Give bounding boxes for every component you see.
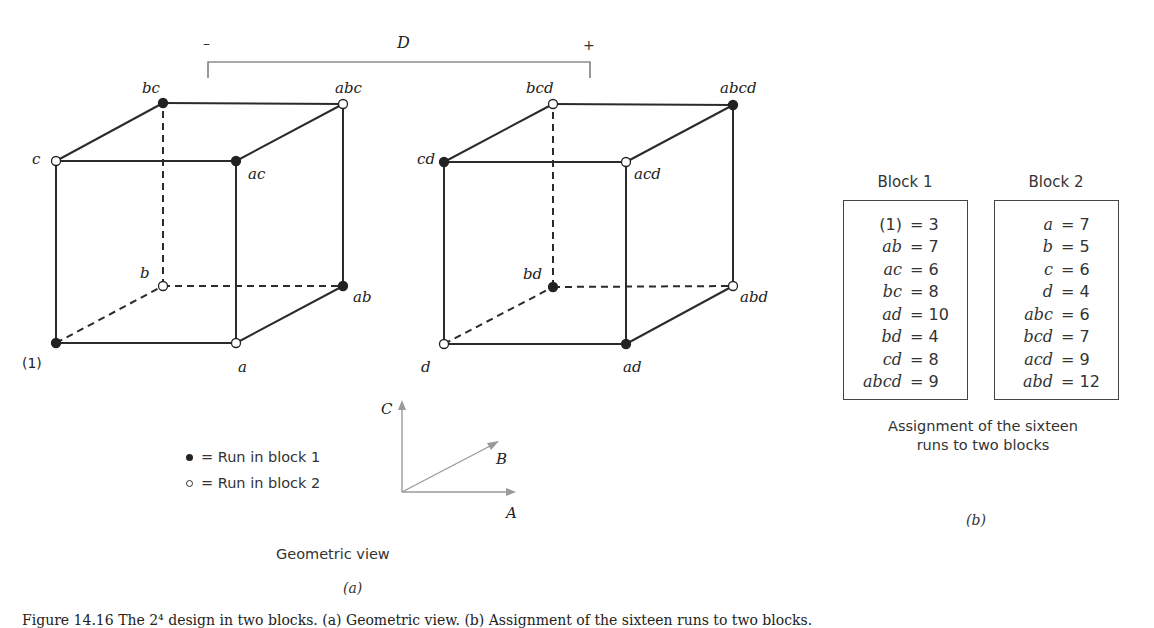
assignment-caption-line1: Assignment of the sixteen: [840, 417, 1126, 436]
block-run-row: ac= 6: [844, 258, 967, 281]
legend: = Run in block 1 = Run in block 2: [186, 444, 320, 496]
block2-run-dot-icon: [52, 157, 61, 166]
run-label: ac: [844, 260, 902, 279]
cube-edge: [626, 286, 733, 344]
block2-run-dot-icon: [232, 339, 241, 348]
run-value: = 8: [902, 282, 939, 301]
legend-label: = Run in block 2: [201, 475, 320, 491]
block2-run-dot-icon: [729, 282, 738, 291]
run-value: = 8: [902, 350, 939, 369]
block2-run-dot-icon: [159, 282, 168, 291]
vertex-label: abcd: [720, 79, 757, 97]
cube-vertex-labels: (1)ababcacbcabcdadbdabdcdacdbcdabcd: [22, 79, 768, 376]
axes-indicator: [398, 400, 516, 496]
vertex-label: (1): [22, 355, 42, 371]
block2-run-dot-icon: [339, 100, 348, 109]
run-label: ad: [844, 305, 902, 324]
geometric-view-caption: Geometric view: [276, 546, 390, 562]
block1-run-dot-icon: [440, 158, 449, 167]
axis-a-label: A: [504, 504, 517, 522]
run-value: = 6: [902, 260, 939, 279]
block1-run-dot-icon: [232, 157, 241, 166]
vertex-label: abd: [740, 288, 768, 306]
run-label: abc: [995, 305, 1053, 324]
vertex-label: a: [238, 358, 247, 376]
vertex-label: ad: [623, 358, 642, 376]
block-run-row: d= 4: [995, 281, 1118, 304]
cube-edge: [626, 105, 733, 162]
figure-caption: Figure 14.16 The 2⁴ design in two blocks…: [22, 612, 812, 628]
cube-vertices: [52, 99, 738, 349]
run-label: abcd: [844, 372, 902, 391]
run-value: = 7: [902, 237, 939, 256]
axis-b-label: B: [495, 450, 507, 468]
vertex-label: b: [140, 264, 150, 282]
block-run-row: abd= 12: [995, 371, 1118, 394]
run-label: c: [995, 260, 1053, 279]
block-run-row: cd= 8: [844, 348, 967, 371]
run-value: = 12: [1053, 372, 1100, 391]
hidden-edge: [56, 286, 163, 343]
block1-table: (1)= 3ab= 7ac= 6bc= 8ad= 10bd= 4cd= 8abc…: [843, 200, 968, 400]
axis-c-arrowhead: [398, 400, 406, 410]
assignment-caption: Assignment of the sixteen runs to two bl…: [840, 417, 1126, 455]
axis-b-arrowhead: [487, 441, 499, 450]
block-run-row: bc= 8: [844, 281, 967, 304]
block-run-row: (1)= 3: [844, 213, 967, 236]
block2-run-dot-icon: [622, 158, 631, 167]
block2-table: a= 7b= 5c= 6d= 4abc= 6bcd= 7acd= 9abd= 1…: [994, 200, 1119, 400]
block1-title: Block 1: [843, 173, 967, 191]
vertex-label: cd: [417, 150, 435, 168]
run-label: a: [995, 215, 1053, 234]
legend-label: = Run in block 1: [201, 449, 320, 465]
block-run-row: c= 6: [995, 258, 1118, 281]
vertex-label: acd: [634, 165, 661, 183]
block-run-row: b= 5: [995, 236, 1118, 259]
d-factor-bracket: – D +: [203, 33, 595, 78]
assignment-caption-line2: runs to two blocks: [840, 436, 1126, 455]
axis-c-label: C: [381, 400, 393, 418]
run-label: abd: [995, 372, 1053, 391]
legend-item-block1: = Run in block 1: [186, 444, 320, 470]
block1-run-dot-icon: [159, 99, 168, 108]
cube-edge: [56, 103, 163, 161]
block-run-row: ad= 10: [844, 303, 967, 326]
open-dot-icon: [186, 480, 193, 487]
cube-edge: [236, 286, 343, 343]
vertex-label: bc: [142, 79, 161, 97]
block1-run-dot-icon: [549, 283, 558, 292]
vertex-label: ab: [353, 288, 372, 306]
block-run-row: bcd= 7: [995, 326, 1118, 349]
run-value: = 3: [902, 215, 939, 234]
legend-item-block2: = Run in block 2: [186, 470, 320, 496]
vertex-label: d: [421, 358, 431, 376]
panel-b-label: (b): [966, 512, 986, 528]
block2-title: Block 2: [994, 173, 1118, 191]
block-run-row: acd= 9: [995, 348, 1118, 371]
run-label: b: [995, 237, 1053, 256]
run-value: = 9: [902, 372, 939, 391]
panel-a-label: (a): [343, 580, 362, 596]
block2-run-dot-icon: [549, 100, 558, 109]
axis-a-arrowhead: [506, 488, 516, 496]
cube-edges: [56, 103, 733, 344]
block-run-row: bd= 4: [844, 326, 967, 349]
run-label: d: [995, 282, 1053, 301]
run-label: (1): [844, 215, 902, 234]
cube-edge: [553, 104, 733, 105]
block1-run-dot-icon: [339, 282, 348, 291]
block-run-row: a= 7: [995, 213, 1118, 236]
d-plus-label: +: [583, 37, 595, 53]
block1-run-dot-icon: [729, 101, 738, 110]
run-label: bcd: [995, 327, 1053, 346]
run-value: = 9: [1053, 350, 1090, 369]
d-minus-label: –: [203, 35, 210, 51]
filled-dot-icon: [186, 454, 193, 461]
block1-run-dot-icon: [52, 339, 61, 348]
vertex-label: ac: [248, 165, 266, 183]
axis-b-arrow: [402, 445, 492, 492]
run-value: = 10: [902, 305, 949, 324]
run-value: = 4: [1053, 282, 1090, 301]
block2-run-dot-icon: [440, 340, 449, 349]
cube-edge: [444, 104, 553, 162]
